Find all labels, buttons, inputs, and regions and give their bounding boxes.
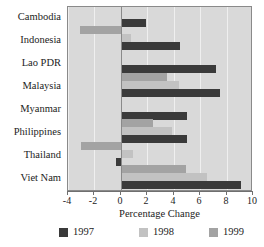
category-label: Lao PDR: [22, 58, 61, 69]
x-axis-title: Percentage Change: [67, 209, 252, 220]
x-tick-label: 0: [118, 196, 123, 206]
gridline: [68, 7, 69, 190]
x-tick-label: 10: [247, 196, 257, 206]
category-label: Cambodia: [18, 12, 61, 23]
x-tick-label: 8: [224, 196, 229, 206]
legend-swatch-icon: [209, 228, 218, 237]
bar-1997: [121, 19, 146, 27]
legend-item-1999[interactable]: 1999: [209, 227, 244, 238]
bar-1997: [121, 89, 220, 97]
x-tick-label: -4: [63, 196, 71, 206]
legend-swatch-icon: [139, 228, 148, 237]
category-label: Malaysia: [23, 81, 62, 92]
bar-1998: [121, 34, 132, 42]
bar-1999: [121, 165, 186, 173]
category-label: Myanmar: [20, 104, 61, 115]
gridline: [174, 7, 175, 190]
x-tick-label: 6: [197, 196, 202, 206]
bar-1998: [121, 173, 207, 181]
legend-item-1997[interactable]: 1997: [59, 227, 94, 238]
bar-1999: [81, 142, 121, 150]
zero-line: [121, 7, 122, 190]
legend-swatch-icon: [59, 228, 68, 237]
gridline: [227, 7, 228, 190]
gridline: [94, 7, 95, 190]
legend-label: 1998: [153, 227, 174, 238]
legend-label: 1999: [223, 227, 244, 238]
chart-legend: 199719981999: [0, 227, 264, 245]
bar-1997: [121, 42, 180, 50]
category-label: Indonesia: [20, 35, 61, 46]
bar-1997: [121, 181, 241, 189]
category-axis: CambodiaIndonesiaLao PDRMalaysiaMyanmarP…: [0, 6, 64, 191]
category-label: Viet Nam: [21, 173, 61, 184]
bar-1998: [121, 81, 179, 89]
plot-area: [67, 6, 252, 191]
category-label: Thailand: [24, 150, 61, 161]
bar-1998: [121, 127, 173, 135]
legend-item-1998[interactable]: 1998: [139, 227, 174, 238]
x-tick-label: -2: [89, 196, 97, 206]
x-tick-label: 4: [171, 196, 176, 206]
percentage-change-bar-chart: CambodiaIndonesiaLao PDRMalaysiaMyanmarP…: [0, 0, 264, 247]
x-tick-label: 2: [144, 196, 149, 206]
x-axis-line: [67, 191, 252, 192]
legend-label: 1997: [73, 227, 94, 238]
bar-1997: [121, 135, 187, 143]
bar-1998: [121, 150, 133, 158]
bar-1999: [121, 119, 153, 127]
gridline: [200, 7, 201, 190]
category-label: Philippines: [14, 127, 61, 138]
gridline: [147, 7, 148, 190]
bar-1999: [121, 73, 167, 81]
bar-1999: [80, 26, 121, 34]
